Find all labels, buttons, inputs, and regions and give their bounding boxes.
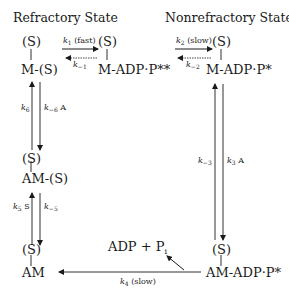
products-label: ADP + P xyxy=(108,239,164,254)
rate-label-k-minus-6: k−6 A xyxy=(44,104,66,113)
nonrefractory-state-heading: Nonrefractory State xyxy=(165,12,289,25)
species-m-adp-p-star: M-ADP·P* xyxy=(206,63,272,76)
rate-label-k5: k5 S xyxy=(13,203,30,212)
species-m-adp-p-double-star: M-ADP·P** xyxy=(98,63,170,76)
species-s-bottom-right: (S) xyxy=(212,243,231,256)
rate-label-k1: k1 (fast) xyxy=(63,37,96,46)
rate-label-k6: k6 xyxy=(21,104,30,113)
rate-label-k-minus-1: k−1 xyxy=(73,61,87,70)
species-s-top-right: (S) xyxy=(212,35,231,48)
rate-label-k-minus-2: k−2 xyxy=(186,61,200,70)
species-s-bottom-left: (S) xyxy=(22,243,41,256)
rate-label-k4: k4 (slow) xyxy=(120,278,156,287)
species-am-adp-p-star: AM-ADP·P* xyxy=(206,266,281,279)
species-s-top-left: (S) xyxy=(22,35,41,48)
species-s-top-mid: (S) xyxy=(98,35,117,48)
rate-label-k3: k3 A xyxy=(227,157,244,166)
rate-label-k-minus-3: k−3 xyxy=(198,157,212,166)
products-adp-pi: ADP + Pi xyxy=(108,240,167,256)
species-m-s: M-(S) xyxy=(21,63,58,76)
species-am: AM xyxy=(22,266,45,279)
refractory-state-heading: Refractory State xyxy=(13,12,118,25)
products-subscript: i xyxy=(164,247,167,256)
species-s-mid-left: (S) xyxy=(22,152,41,165)
rate-label-k-minus-5: k−5 xyxy=(44,203,58,212)
rate-label-k2: k2 (slow) xyxy=(176,37,212,46)
species-am-s: AM-(S) xyxy=(22,172,68,185)
